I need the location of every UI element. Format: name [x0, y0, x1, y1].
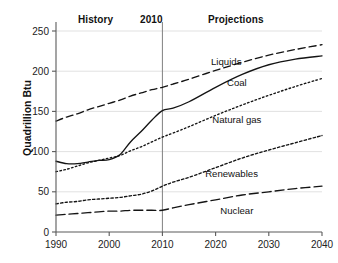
x-axis-ticks: 199020002010202020302040	[45, 232, 334, 250]
x-tick-2000: 2000	[98, 239, 121, 250]
x-tick-2030: 2030	[258, 239, 281, 250]
series-label-natural-gas: Natural gas	[212, 114, 261, 125]
series-line-natural-gas	[56, 78, 322, 171]
energy-outlook-chart: History 2010 Projections Quadrillion Btu…	[0, 0, 338, 263]
series-label-nuclear: Nuclear	[220, 205, 254, 216]
grid-lines	[56, 31, 322, 192]
series-line-renewables	[56, 136, 322, 204]
series-line-liquids	[56, 45, 322, 121]
x-tick-2040: 2040	[311, 239, 334, 250]
series-label-coal: Coal	[227, 77, 247, 88]
x-tick-1990: 1990	[45, 239, 68, 250]
x-tick-2020: 2020	[204, 239, 227, 250]
y-tick-200: 200	[32, 66, 49, 77]
x-tick-2010: 2010	[151, 239, 174, 250]
series-line-nuclear	[56, 186, 322, 215]
y-tick-150: 150	[32, 106, 49, 117]
series-label-renewables: Renewables	[205, 168, 258, 179]
series-label-liquids: Liquids	[211, 56, 242, 67]
series-line-coal	[56, 56, 322, 164]
y-tick-0: 0	[43, 227, 49, 238]
data-series-group	[56, 45, 322, 215]
y-tick-250: 250	[32, 26, 49, 37]
chart-plot-area: 050100150200250 199020002010202020302040…	[0, 0, 338, 263]
y-tick-100: 100	[32, 146, 49, 157]
y-tick-50: 50	[38, 186, 50, 197]
y-axis-ticks: 050100150200250	[32, 26, 56, 238]
